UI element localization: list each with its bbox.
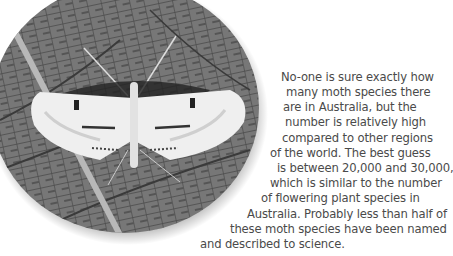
paragraph-line: number is relatively high: [285, 115, 426, 129]
paragraph-line: are in Australia, but the: [283, 100, 417, 114]
paragraph-line: and described to science.: [200, 237, 345, 251]
paragraph-line: these moth species have been named: [230, 222, 447, 236]
paragraph-line: of flowering plant species in: [261, 191, 420, 205]
paragraph-line: many moth species there: [286, 85, 430, 99]
paragraph-line: compared to other regions: [282, 131, 433, 145]
paragraph-line: of the world. The best guess: [270, 146, 431, 160]
paragraph-line: Australia. Probably less than half of: [247, 207, 447, 221]
paragraph-line: No-one is sure exactly how: [281, 70, 434, 84]
paragraph-line: which is similar to the number: [270, 176, 442, 190]
paragraph-line: is between 20,000 and 30,000,: [277, 161, 453, 175]
